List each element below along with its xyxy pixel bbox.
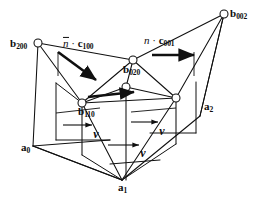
edge-b110-right xyxy=(82,98,176,103)
node-apex xyxy=(129,56,137,64)
vertex-label-b110: b110 xyxy=(78,106,95,118)
arrow-nc100 xyxy=(58,52,96,80)
vertex-label-a2: a2 xyxy=(204,101,213,113)
vector-label-v-bottom: v xyxy=(140,147,145,159)
edge-base-left xyxy=(33,146,122,180)
node-b200 xyxy=(34,39,42,47)
vector-label-v-left: v xyxy=(93,128,98,140)
vertex-label-a1: a1 xyxy=(118,182,127,194)
node-b002 xyxy=(220,10,228,18)
vertex-label-b020: b020 xyxy=(123,64,140,76)
geometric-diagram xyxy=(0,0,265,204)
edge-b200-a0 xyxy=(33,43,38,146)
vertex-label-b002: b002 xyxy=(230,8,247,20)
line-a0-mid xyxy=(33,140,110,146)
line-v-right-guide xyxy=(131,108,176,112)
node-b020 xyxy=(122,83,130,91)
vertex-label-b200: b200 xyxy=(10,38,27,50)
vector-label-n-c001: n · c001 xyxy=(144,35,175,47)
vertex-label-a0: a0 xyxy=(21,142,30,154)
node-right xyxy=(172,94,180,102)
outer-frame xyxy=(33,14,224,180)
vector-label-n-bar-c100: n · c100 xyxy=(63,38,94,50)
vector-label-v-right: v xyxy=(159,125,164,137)
figure-canvas: b200 b002 b020 b110 a0 a1 a2 n · c100 n … xyxy=(0,0,265,204)
